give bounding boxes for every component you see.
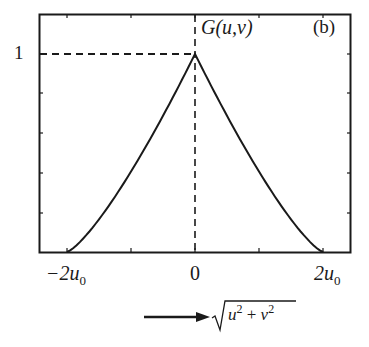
chart-plot	[0, 0, 369, 347]
x-axis-label: u2 + v2	[228, 305, 274, 325]
x-tick-label-2u0: 2u0	[314, 262, 341, 285]
x-tick-label-neg-2u0: −2u0	[46, 262, 86, 285]
curve-label: G(u,v)	[201, 16, 253, 39]
y-tick-label-one: 1	[14, 42, 24, 64]
arrow-icon	[144, 312, 210, 322]
panel-label: (b)	[313, 16, 335, 38]
plot-frame	[40, 15, 351, 253]
x-tick-label-zero: 0	[190, 262, 200, 285]
x-ticks	[67, 15, 323, 252]
